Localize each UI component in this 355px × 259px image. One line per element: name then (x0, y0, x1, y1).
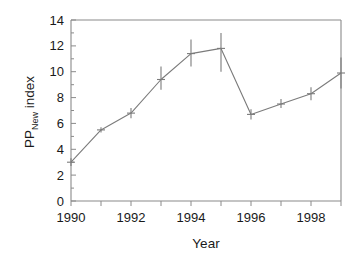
error-bar-1996 (247, 109, 255, 119)
x-axis-title: Year (192, 236, 220, 251)
chart-figure: 0 2 4 6 8 10 12 14 1990 1992 1994 1996 1… (0, 0, 355, 259)
error-bars (67, 33, 345, 166)
y-axis-title: PPNew index (22, 76, 40, 148)
error-bar-1998 (307, 87, 315, 100)
y-label-6: 6 (57, 116, 64, 131)
y-label-2: 2 (57, 168, 64, 183)
x-label-1992: 1992 (117, 210, 146, 225)
x-label-1996: 1996 (237, 210, 266, 225)
y-label-0: 0 (57, 194, 64, 209)
y-axis-title-tail: index (22, 76, 37, 112)
x-label-1990: 1990 (57, 210, 86, 225)
y-axis-title-subscript: New (30, 112, 40, 131)
x-axis-tick-labels: 1990 1992 1994 1996 1998 (57, 210, 326, 225)
svg-text:PPNew index: PPNew index (22, 76, 40, 148)
y-label-10: 10 (50, 64, 64, 79)
y-label-4: 4 (57, 142, 64, 157)
y-axis-title-main: PP (22, 130, 37, 148)
y-axis-tick-labels: 0 2 4 6 8 10 12 14 (50, 13, 64, 209)
error-bar-1995 (217, 33, 225, 72)
y-label-12: 12 (50, 38, 64, 53)
error-bar-1999 (337, 58, 345, 89)
axis-frame (71, 20, 341, 201)
y-label-14: 14 (50, 13, 64, 28)
y-axis-ticks (71, 20, 76, 201)
line-chart-plot: 0 2 4 6 8 10 12 14 1990 1992 1994 1996 1… (0, 0, 355, 259)
series-line-pp-new-index (71, 48, 341, 162)
x-label-1994: 1994 (177, 210, 206, 225)
error-bar-1993 (157, 67, 165, 90)
x-axis-ticks (71, 201, 341, 206)
y-label-8: 8 (57, 90, 64, 105)
x-label-1998: 1998 (297, 210, 326, 225)
